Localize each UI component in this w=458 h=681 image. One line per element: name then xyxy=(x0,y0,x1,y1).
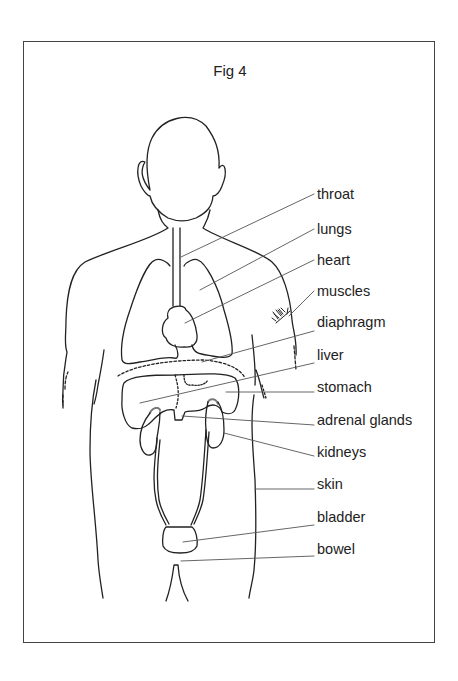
leader-diaphragm xyxy=(202,331,314,362)
liver xyxy=(122,374,239,429)
right-adrenal xyxy=(208,399,218,404)
trachea xyxy=(173,228,180,306)
leader-bowel xyxy=(181,556,314,561)
head-outline xyxy=(138,117,225,221)
leader-lungs xyxy=(200,229,314,290)
leader-throat xyxy=(181,194,314,257)
label-liver: liver xyxy=(317,347,344,363)
label-bladder: bladder xyxy=(317,509,365,525)
leader-heart xyxy=(185,260,314,323)
bladder xyxy=(163,527,198,553)
left-ureter xyxy=(154,438,169,525)
heart xyxy=(162,306,197,347)
stomach-outline xyxy=(175,375,178,408)
label-skin: skin xyxy=(317,476,343,492)
left-kidney xyxy=(140,412,160,455)
right-inner-arm xyxy=(252,335,264,398)
leader-kidneys xyxy=(224,433,314,456)
right-torso-side xyxy=(249,395,256,598)
crotch-outline xyxy=(166,565,188,601)
leader-bladder xyxy=(183,525,314,542)
label-lungs: lungs xyxy=(317,221,352,237)
muscle-fibres-icon xyxy=(272,308,290,323)
right-lung xyxy=(184,259,232,357)
label-muscles: muscles xyxy=(317,283,370,299)
left-torso-side xyxy=(90,380,103,598)
leader-lines xyxy=(140,194,314,561)
label-throat: throat xyxy=(317,186,354,202)
label-diaphragm: diaphragm xyxy=(317,314,386,330)
left-inner-arm xyxy=(94,350,104,404)
left-adrenal xyxy=(150,408,160,413)
label-adrenal-glands: adrenal glands xyxy=(317,412,412,428)
stomach-top xyxy=(184,375,208,385)
label-stomach: stomach xyxy=(317,379,372,395)
leader-adrenal xyxy=(182,416,314,425)
right-shoulder-outline xyxy=(203,210,296,355)
leader-muscles xyxy=(289,291,314,316)
label-bowel: bowel xyxy=(317,541,355,557)
leader-liver xyxy=(140,363,314,403)
left-lung xyxy=(121,259,177,363)
label-heart: heart xyxy=(317,252,350,268)
torso-diagram xyxy=(0,0,458,681)
label-kidneys: kidneys xyxy=(317,444,366,460)
right-ureter xyxy=(191,430,209,525)
